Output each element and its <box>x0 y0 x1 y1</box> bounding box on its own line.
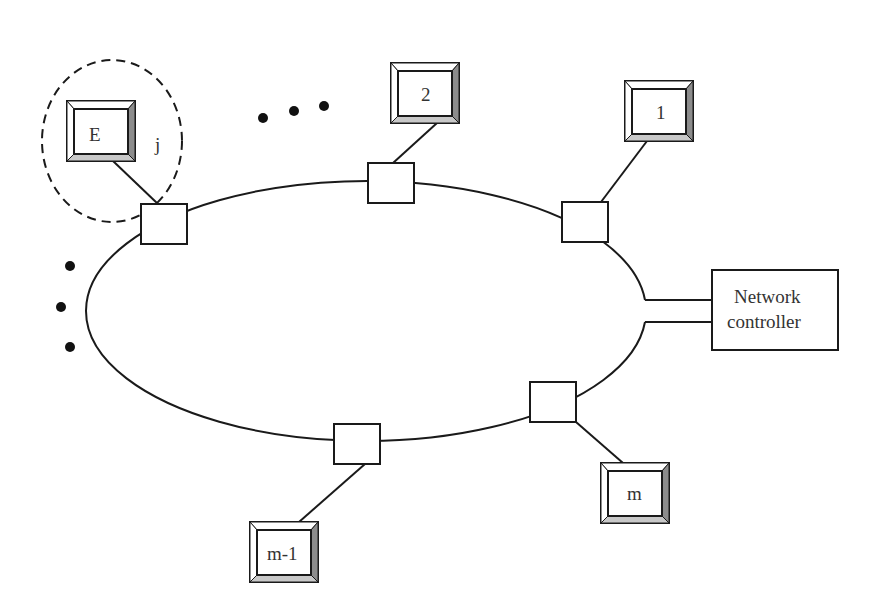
terminal-label-1: 1 <box>656 102 666 123</box>
terminal-label-2: 2 <box>421 84 431 105</box>
drop-line-E <box>113 161 158 204</box>
terminal-m[interactable]: m <box>601 463 669 523</box>
terminal-m-1[interactable]: m-1 <box>250 522 318 582</box>
drop-line-m <box>576 422 623 463</box>
terminal-2[interactable]: 2 <box>391 63 459 123</box>
interface-2[interactable] <box>368 163 414 203</box>
group-label-j: j <box>154 134 160 155</box>
interface-1[interactable] <box>562 202 608 242</box>
terminal-label-m-1: m-1 <box>267 543 298 564</box>
ring-network-diagram: Network controller j E 2 1 <box>0 0 885 611</box>
drop-line-1 <box>601 141 647 202</box>
controller-label-line2: controller <box>727 311 802 332</box>
ellipsis-top-icon <box>258 101 329 123</box>
drop-line-m-1 <box>299 464 365 522</box>
network-controller[interactable]: Network controller <box>712 270 838 350</box>
terminal-label-E: E <box>89 124 101 145</box>
interface-m-1[interactable] <box>334 424 380 464</box>
drop-line-2 <box>393 123 437 163</box>
terminal-label-m: m <box>627 483 642 504</box>
controller-label-line1: Network <box>734 286 801 307</box>
terminal-1[interactable]: 1 <box>625 81 693 141</box>
interface-m[interactable] <box>530 382 576 422</box>
ellipsis-left-icon <box>56 261 75 352</box>
interface-E[interactable] <box>141 204 187 244</box>
terminal-E[interactable]: E <box>67 101 135 161</box>
